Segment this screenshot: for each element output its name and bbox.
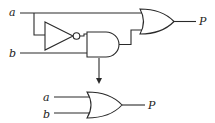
input-label-b-simplified: b [43, 108, 50, 121]
and-gate [87, 32, 119, 57]
input-label-a-simplified: a [43, 91, 50, 104]
input-label-b: b [9, 47, 16, 60]
output-label-top: P [198, 15, 207, 28]
input-label-a: a [9, 6, 16, 19]
wire-not-out [80, 34, 87, 36]
or-gate-bottom [87, 92, 122, 118]
output-label-bottom: P [147, 99, 156, 112]
wire-and-out [119, 30, 143, 45]
inversion-bubble [73, 33, 80, 40]
not-gate [45, 22, 80, 50]
or-gate-top [140, 9, 174, 34]
wire-a-branch [34, 13, 45, 35]
logic-diagram: a b P a b P [0, 0, 215, 123]
bottom-circuit: a b P [43, 91, 156, 121]
top-circuit: a b P [9, 6, 207, 60]
down-arrow-icon [96, 58, 102, 84]
